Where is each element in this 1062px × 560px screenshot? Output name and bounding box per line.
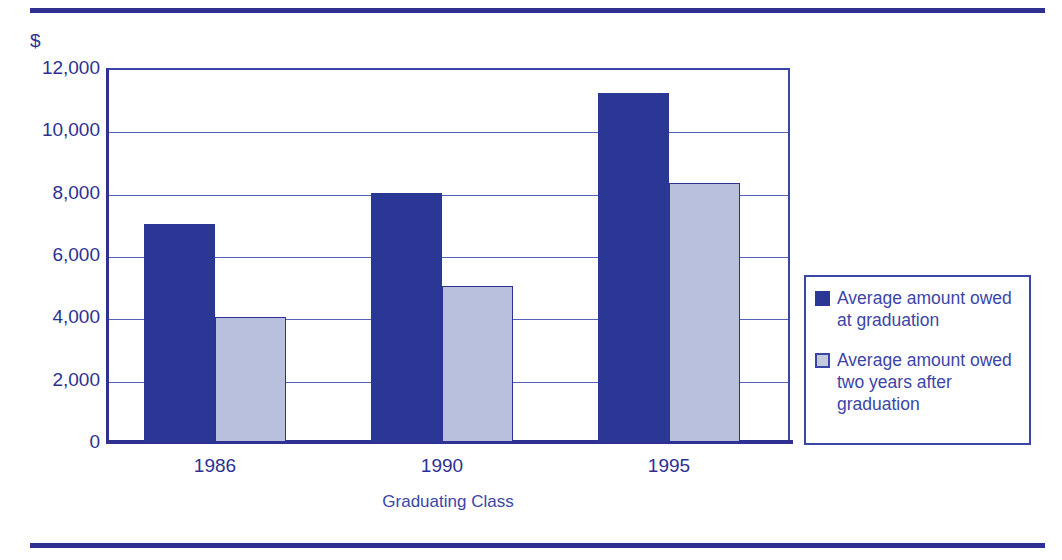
y-axis-tick-label: 0: [4, 431, 100, 453]
chart-legend: Average amount owed at graduationAverage…: [804, 275, 1031, 445]
bar-1990-series-0: [371, 193, 442, 442]
bar-1990-series-1: [442, 286, 513, 442]
legend-label: Average amount owed two years after grad…: [837, 349, 1021, 415]
y-axis-tick-label: 2,000: [4, 369, 100, 391]
y-axis-unit-label: $: [30, 30, 41, 52]
bar-1986-series-0: [144, 224, 215, 442]
y-axis-tick-label: 10,000: [4, 119, 100, 141]
y-axis-tick-label: 4,000: [4, 306, 100, 328]
legend-entry-0: Average amount owed at graduation: [815, 287, 1021, 331]
legend-label: Average amount owed at graduation: [837, 287, 1021, 331]
x-axis-title: Graduating Class: [106, 492, 790, 512]
legend-entry-1: Average amount owed two years after grad…: [815, 349, 1021, 415]
chart-figure: $ 02,0004,0006,0008,00010,00012,000 Grad…: [0, 0, 1062, 560]
x-axis-tick-label-1990: 1990: [371, 455, 513, 477]
bar-1995-series-0: [598, 93, 669, 442]
top-divider-rule: [30, 8, 1045, 13]
y-axis-tick-label: 8,000: [4, 182, 100, 204]
y-axis-tick-labels: 02,0004,0006,0008,00010,00012,000: [0, 68, 100, 442]
bar-1986-series-1: [215, 317, 286, 442]
dark-blue-swatch: [815, 291, 830, 306]
x-axis-tick-label-1986: 1986: [144, 455, 286, 477]
y-axis-tick-label: 6,000: [4, 244, 100, 266]
y-axis-tick-label: 12,000: [4, 57, 100, 79]
bars-layer: [106, 68, 790, 442]
x-axis-tick-label-1995: 1995: [598, 455, 740, 477]
light-blue-swatch: [815, 353, 830, 368]
bar-1995-series-1: [669, 183, 740, 442]
bottom-divider-rule: [30, 543, 1045, 548]
